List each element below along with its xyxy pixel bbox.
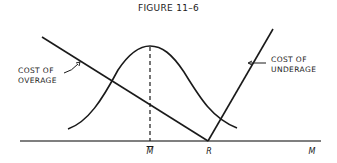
cost-of-underage-label: COST OF UNDERAGE — [271, 55, 316, 75]
overage-label-line1: COST OF — [18, 66, 57, 76]
m-axis-label: M — [309, 147, 316, 156]
cost-of-overage-label: COST OF OVERAGE — [18, 66, 57, 86]
mean-label: M — [147, 147, 154, 156]
cost-of-overage-line — [42, 37, 208, 141]
overage-label-line2: OVERAGE — [18, 76, 57, 86]
overage-arrow-icon — [64, 64, 78, 73]
demand-distribution-curve — [68, 46, 237, 129]
underage-label-line2: UNDERAGE — [271, 65, 316, 75]
r-label: R — [206, 147, 212, 156]
cost-of-underage-line — [208, 29, 273, 141]
underage-label-line1: COST OF — [271, 55, 316, 65]
